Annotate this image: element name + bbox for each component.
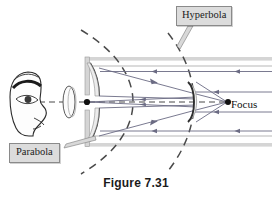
face-profile-icon: [10, 72, 46, 136]
image-point-dot-icon: [84, 99, 90, 105]
eye-icon: [25, 96, 32, 103]
telescope-tube-upper: [85, 57, 272, 66]
figure-caption: Figure 7.31: [0, 176, 272, 190]
incoming-light-rays-lower: [100, 110, 272, 134]
label-parabola: Parabola: [9, 143, 60, 163]
eyepiece-lens-icon: [63, 86, 76, 118]
figure-container: Hyperbola Parabola Focus Figure 7.31: [0, 0, 272, 201]
telescope-tube-lower: [85, 136, 272, 147]
label-hyperbola: Hyperbola: [176, 6, 232, 26]
hyperbola-leader-line: [177, 26, 193, 49]
label-focus: Focus: [231, 98, 257, 110]
